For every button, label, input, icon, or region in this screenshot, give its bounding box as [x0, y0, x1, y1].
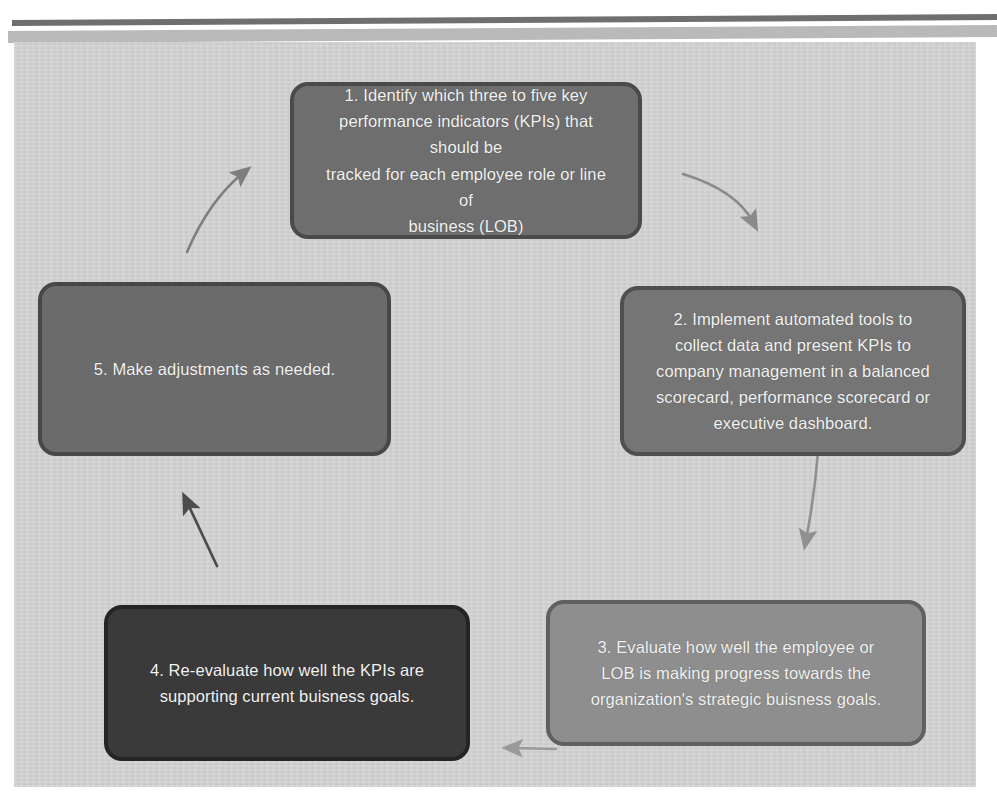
process-step-2-label: 2. Implement automated tools to collect … — [656, 306, 930, 436]
process-step-3[interactable]: 3. Evaluate how well the employee or LOB… — [546, 600, 926, 746]
process-step-2[interactable]: 2. Implement automated tools to collect … — [620, 286, 966, 456]
process-step-4[interactable]: 4. Re-evaluate how well the KPIs are sup… — [104, 605, 470, 761]
process-step-1[interactable]: 1. Identify which three to five key perf… — [290, 82, 642, 239]
diagram-page: 1. Identify which three to five key perf… — [0, 0, 997, 802]
process-step-4-label: 4. Re-evaluate how well the KPIs are sup… — [150, 657, 424, 709]
page-top-rule — [12, 14, 997, 26]
process-step-5[interactable]: 5. Make adjustments as needed. — [38, 282, 391, 456]
page-top-band — [8, 25, 997, 43]
process-step-5-label: 5. Make adjustments as needed. — [94, 356, 335, 382]
process-step-3-label: 3. Evaluate how well the employee or LOB… — [591, 634, 882, 712]
process-step-1-label: 1. Identify which three to five key perf… — [320, 82, 612, 238]
